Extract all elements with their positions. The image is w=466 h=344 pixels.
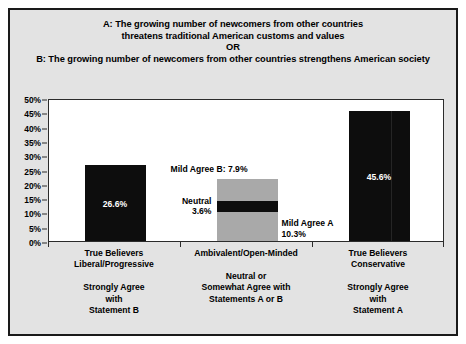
y-axis-tick-label-6: 30% [24,152,41,162]
y-axis-tick-mark-0 [42,243,47,244]
title-line-3: B: The growing number of newcomers from … [10,54,456,66]
y-axis-tick-label-9: 45% [24,109,41,119]
y-axis: 0%5%10%15%20%25%30%35%40%45%50% [10,96,48,245]
x-axis-category-1: Ambivalent/Open-MindedNeutral orSomewhat… [180,248,312,305]
x-category-group-label-0: True BelieversLiberal/Progressive [48,248,180,270]
title-line-or: OR [10,42,456,54]
x-category-line: Somewhat Agree with [180,282,312,293]
y-axis-tick-label-4: 20% [24,181,41,191]
x-category-group-label-1: Ambivalent/Open-Minded [180,248,312,259]
x-axis-tick-3 [443,242,444,247]
y-axis-tick-mark-8 [42,128,47,129]
y-axis-tick-label-5: 25% [24,167,41,177]
callout-neutral-value: 3.6% [192,206,212,216]
x-category-description-0: Strongly AgreewithStatement B [48,282,180,316]
x-category-line: Statement B [48,305,180,316]
y-axis-tick-mark-1 [42,228,47,229]
bar-value-label-1: 26.6% [85,199,146,209]
x-category-line: True Believers [312,248,444,259]
y-axis-tick-mark-7 [42,142,47,143]
x-axis-category-0: True BelieversLiberal/ProgressiveStrongl… [48,248,180,316]
bar-ambivalent-open-minded [217,179,278,241]
x-category-line: Statements A or B [180,294,312,305]
title-line-1: A: The growing number of newcomers from … [10,19,456,31]
y-axis-tick-label-3: 15% [24,195,41,205]
x-category-line: Ambivalent/Open-Minded [180,248,312,259]
bar-segment-neutral [217,201,278,211]
bar-segment-mild-agree-a [217,212,278,241]
y-axis-tick-mark-5 [42,171,47,172]
chart-title: A: The growing number of newcomers from … [10,19,456,65]
callout-mild-agree-a: Mild Agree A 10.3% [282,218,334,239]
callout-mild-agree-a-value: 10.3% [282,229,306,239]
x-category-line: Strongly Agree [48,282,180,293]
y-axis-tick-mark-4 [42,185,47,186]
y-axis-tick-mark-3 [42,200,47,201]
y-axis-tick-mark-6 [42,157,47,158]
chart-figure: A: The growing number of newcomers from … [8,8,458,336]
y-axis-tick-mark-9 [42,114,47,115]
x-category-group-label-2: True BelieversConservative [312,248,444,270]
x-category-line: Conservative [312,259,444,270]
callout-mild-agree-a-name: Mild Agree A [282,218,334,228]
bar-segment-mild-agree-b [217,179,278,202]
x-category-line: Neutral or [180,271,312,282]
x-category-line: Strongly Agree [312,282,444,293]
x-axis-labels: True BelieversLiberal/ProgressiveStrongl… [48,248,444,332]
y-axis-tick-label-1: 5% [29,224,41,234]
y-axis-tick-label-2: 10% [24,209,41,219]
x-category-line: with [48,294,180,305]
callout-neutral: Neutral 3.6% [182,196,212,217]
x-category-description-2: Strongly AgreewithStatement A [312,282,444,316]
bar-true-believers-liberal: 26.6% [85,165,146,241]
callout-mild-agree-b: Mild Agree B: 7.9% [171,164,248,174]
y-axis-tick-mark-2 [42,214,47,215]
title-line-2: threatens traditional American customs a… [10,31,456,43]
y-axis-tick-label-0: 0% [29,238,41,248]
callout-neutral-name: Neutral [182,196,212,206]
y-axis-tick-label-8: 40% [24,124,41,134]
plot-area: 26.6% 45.6% Mild Agree B: 7.9% Neutral 3… [48,99,444,242]
x-axis-category-2: True BelieversConservativeStrongly Agree… [312,248,444,316]
bar-value-label-3: 45.6% [349,172,410,182]
x-category-line: Liberal/Progressive [48,259,180,270]
y-axis-tick-mark-10 [42,100,47,101]
x-axis-tick-1 [180,242,181,247]
x-category-line: Statement A [312,305,444,316]
x-category-line: True Believers [48,248,180,259]
x-axis-tick-2 [312,242,313,247]
bar-true-believers-conservative: 45.6% [349,111,410,241]
x-category-line: with [312,294,444,305]
x-category-description-1: Neutral orSomewhat Agree withStatements … [180,271,312,305]
y-axis-tick-label-7: 35% [24,138,41,148]
x-axis-tick-0 [48,242,49,247]
y-axis-tick-label-10: 50% [24,95,41,105]
